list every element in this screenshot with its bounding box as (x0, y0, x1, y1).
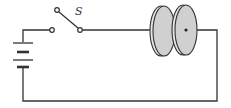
capacitor-icon (150, 5, 197, 56)
battery-icon (13, 43, 33, 67)
circuit-diagram: S (0, 0, 231, 108)
wire-battery-switch (23, 30, 50, 42)
switch-label: S (75, 5, 83, 18)
circuit-svg (0, 0, 231, 108)
